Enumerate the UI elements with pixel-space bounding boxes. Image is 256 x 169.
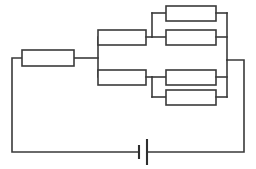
upper-branch-resistor <box>98 30 146 45</box>
lower-parallel-top-resistor <box>166 70 216 85</box>
lower-branch-resistor <box>98 70 146 85</box>
upper-parallel-top-resistor <box>166 6 216 21</box>
upper-branch-lead-wire <box>146 13 166 37</box>
lower-branch-lead-wire <box>146 77 166 97</box>
lower-parallel-merge-wire <box>216 60 227 97</box>
upper-parallel-merge-wire <box>216 13 227 60</box>
circuit-diagram <box>0 0 256 169</box>
upper-parallel-bottom-resistor <box>166 30 216 45</box>
lower-parallel-bottom-resistor <box>166 90 216 105</box>
series-resistor <box>22 50 74 66</box>
battery <box>139 139 147 165</box>
circuit-schematic-svg <box>0 0 256 169</box>
